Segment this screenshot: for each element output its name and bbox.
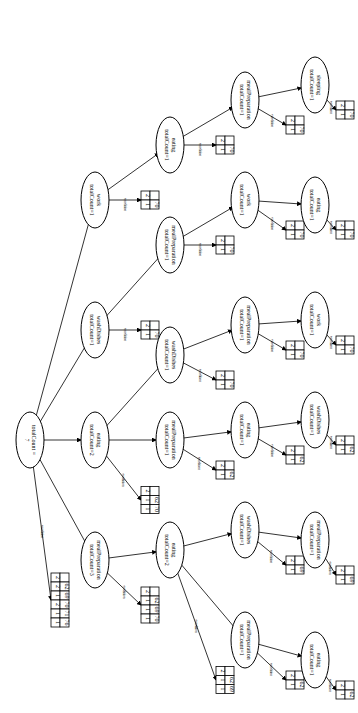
table-count: 2 xyxy=(220,464,226,467)
node-count: totalCount=1 xyxy=(164,229,170,261)
table-value: 76 xyxy=(64,620,70,626)
edge: condition xyxy=(256,437,286,457)
node-label: work xyxy=(246,194,252,206)
tree-node: washDishestotalCount=1 xyxy=(301,392,329,448)
table-count: 2 xyxy=(290,224,296,227)
edge: condition xyxy=(108,198,141,211)
table-count: 1 xyxy=(145,617,151,620)
table-value: 69 xyxy=(64,593,70,599)
edge xyxy=(182,432,231,438)
table-count: 2 xyxy=(145,324,151,327)
table-value: 70 xyxy=(154,332,160,338)
table-count: 2 xyxy=(290,559,296,562)
tree-node: worktotalCount=1 xyxy=(231,172,259,228)
count-table: 2262169270171176 xyxy=(51,573,70,627)
edge: condition xyxy=(181,362,216,383)
table-count: 2 xyxy=(340,339,346,342)
tree-node: sleepingtotalCount=1 xyxy=(301,57,329,113)
count-table: 2170 xyxy=(336,101,355,119)
edge-label: condition xyxy=(197,457,201,470)
node-label: sleeping xyxy=(316,75,322,95)
table-count: 2 xyxy=(340,569,346,572)
table-count: 1 xyxy=(220,688,226,691)
table-value: 70 xyxy=(299,232,305,238)
tree-node: mealPreparationtotalCount=1 xyxy=(156,412,184,468)
tree-node: washDishestotalCount=1 xyxy=(81,302,109,358)
node-label: eating xyxy=(316,198,322,213)
edge xyxy=(257,532,301,538)
count-table: 2162 xyxy=(286,671,305,689)
edge: condition xyxy=(104,570,141,605)
node-label: washDishes xyxy=(96,316,102,345)
edge: condition xyxy=(183,143,216,156)
edge-label: condition xyxy=(329,436,333,449)
tree-node: mealPreparationtotalCount=1 xyxy=(301,512,329,568)
table-count: 2 xyxy=(55,603,61,606)
count-table: 2170 xyxy=(286,116,305,134)
edge xyxy=(107,552,156,558)
table-value: 62 xyxy=(229,472,235,478)
table-value: 70 xyxy=(349,347,355,353)
table-count: 2 xyxy=(290,344,296,347)
count-table: 2170 xyxy=(141,321,160,339)
edge: condition xyxy=(181,448,216,471)
table-count: 1 xyxy=(220,248,226,251)
edge-label: condition xyxy=(329,101,333,114)
table-count: 2 xyxy=(220,139,226,142)
table-value: 70 xyxy=(299,127,305,133)
node-count: totalCount=2 xyxy=(164,534,170,566)
table-value: 70 xyxy=(229,382,235,388)
table-count: 2 xyxy=(340,439,346,442)
tree-node: mealPreparationtotalCount=1 xyxy=(156,217,184,273)
node-count: totalCount=1 xyxy=(89,314,95,346)
node-count: totalCount=1 xyxy=(309,304,315,336)
table-value: 62 xyxy=(299,682,305,688)
edge xyxy=(178,561,236,629)
node-label: eating xyxy=(316,653,322,668)
node-label: mealPreparation xyxy=(171,225,177,264)
table-count: 1 xyxy=(220,679,226,682)
table-value: 70 xyxy=(64,602,70,608)
tree-node: eatingtotalCount=2 xyxy=(81,412,109,468)
table-value: 70 xyxy=(154,202,160,208)
table-count: 2 xyxy=(340,684,346,687)
table-value: 70 xyxy=(349,112,355,118)
edge-label: condition xyxy=(122,585,126,598)
table-count: 1 xyxy=(290,683,296,686)
table-count: 2 xyxy=(220,239,226,242)
table-value: 70 xyxy=(154,506,160,512)
node-label: washDishes xyxy=(246,516,252,545)
table-count: 2 xyxy=(290,449,296,452)
table-count: 1 xyxy=(290,568,296,571)
node-label: eating xyxy=(96,433,102,448)
table-value: 62 xyxy=(154,497,160,503)
tree-node: eatingtotalCount=1 xyxy=(231,402,259,458)
table-value: 70 xyxy=(229,147,235,153)
table-count: 1 xyxy=(145,333,151,336)
table-value: 62 xyxy=(229,677,235,683)
node-count: totalCount=1 xyxy=(239,514,245,546)
node-label: totalCount = xyxy=(31,425,37,456)
edge-label: condition xyxy=(198,369,202,382)
edge xyxy=(181,207,233,238)
table-count: 2 xyxy=(220,374,226,377)
node-count: totalCount=1 xyxy=(239,84,245,116)
table-value: 62 xyxy=(154,598,160,604)
table-value: 70 xyxy=(154,616,160,622)
edge: condition xyxy=(183,243,216,256)
table-count: 1 xyxy=(340,693,346,696)
table-value: 62 xyxy=(299,457,305,463)
edge xyxy=(105,153,159,191)
edge-label: condition xyxy=(198,243,202,256)
table-count: 1 xyxy=(340,448,346,451)
count-table: 2170 xyxy=(336,336,355,354)
node-label: eating xyxy=(246,423,252,438)
edge xyxy=(257,644,301,656)
edge-label: condition xyxy=(329,336,333,349)
table-value: 70 xyxy=(349,232,355,238)
edge: condition xyxy=(255,539,286,565)
count-table: 2170 xyxy=(286,341,305,359)
node-label: washDishes xyxy=(316,406,322,435)
table-count: 1 xyxy=(220,383,226,386)
node-label: eating xyxy=(171,138,177,153)
